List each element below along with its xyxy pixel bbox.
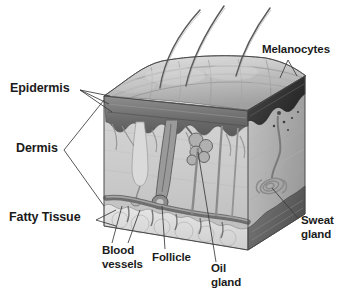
label-oil-gland-line1: Oil xyxy=(211,262,226,275)
label-blood-vessels-line1: Blood xyxy=(102,244,134,257)
label-melanocytes: Melanocytes xyxy=(262,43,330,56)
label-dermis: Dermis xyxy=(16,142,58,156)
label-epidermis: Epidermis xyxy=(10,82,70,96)
label-sweat-gland-line1: Sweat xyxy=(301,214,334,227)
label-blood-vessels-line2: vessels xyxy=(102,258,143,271)
label-oil-gland-line2: gland xyxy=(211,276,241,289)
leader-dermis xyxy=(64,100,104,206)
label-follicle: Follicle xyxy=(152,251,191,264)
label-fatty-tissue: Fatty Tissue xyxy=(9,211,81,225)
label-sweat-gland-line2: gland xyxy=(301,228,331,241)
